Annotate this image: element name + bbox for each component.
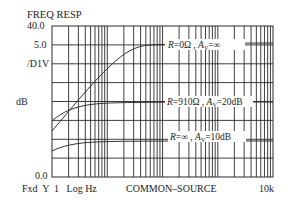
- chart-plot: R=0Ω , AV=∞ R=910Ω , AV=20dB R=∞ , AV=10…: [0, 0, 290, 202]
- curve-label-r0: R=0Ω , AV=∞: [165, 39, 245, 51]
- svg-text:R=910Ω , AV=20dB: R=910Ω , AV=20dB: [166, 97, 243, 108]
- curve-label-r910: R=910Ω , AV=20dB: [165, 96, 253, 108]
- svg-text:R=∞ , AV=10dB: R=∞ , AV=10dB: [169, 132, 231, 143]
- curve-label-rinf: R=∞ , AV=10dB: [168, 131, 246, 143]
- svg-text:R=0Ω , AV=∞: R=0Ω , AV=∞: [167, 40, 221, 51]
